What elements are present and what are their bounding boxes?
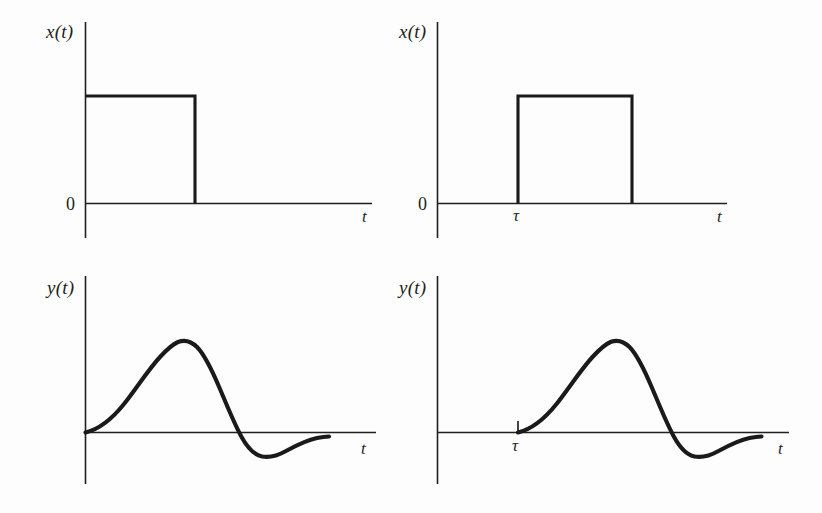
pulse-waveform [86,96,196,204]
xlabel-t: t [361,440,366,457]
xlabel-t: t [362,208,367,225]
tau-label: τ [512,437,518,454]
origin-label-zero: 0 [418,195,427,213]
xlabel-t: t [717,208,722,225]
pulse-waveform [518,96,632,204]
panel-bottom-left: y(t) t [0,256,411,513]
response-waveform [518,341,762,457]
ylabel-y-of-t: y(t) [399,278,426,297]
panel-top-right: x(t) 0 τ t [411,0,822,256]
response-waveform [86,341,330,457]
tau-label: τ [513,207,519,224]
xlabel-t: t [778,440,783,457]
ylabel-x-of-t: x(t) [46,22,73,41]
origin-label-zero: 0 [66,195,75,213]
figure-canvas: x(t) 0 t x(t) 0 τ t y(t) t [0,0,822,513]
ylabel-x-of-t: x(t) [399,22,426,41]
panel-bottom-right: y(t) τ t [411,256,822,513]
ylabel-y-of-t: y(t) [47,278,74,297]
panel-top-left: x(t) 0 t [0,0,411,256]
